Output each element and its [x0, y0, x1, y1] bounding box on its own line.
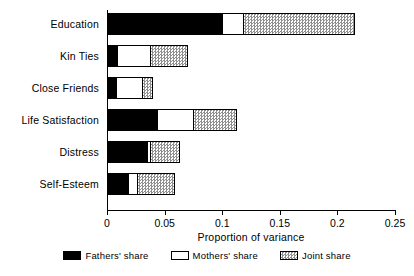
- bar-row: [107, 109, 237, 131]
- x-axis-title: Proportion of variance: [107, 231, 395, 243]
- white-open-swatch: [171, 251, 189, 260]
- bar-segment-mothers: [128, 173, 137, 195]
- x-axis-tick: [107, 210, 108, 215]
- x-axis-tick: [222, 210, 223, 215]
- bar-row: [107, 13, 355, 35]
- bar-segment-fathers: [107, 45, 117, 67]
- y-axis-category-labels: EducationKin TiesClose FriendsLife Satis…: [0, 10, 103, 210]
- bar-segment-mothers: [222, 13, 243, 35]
- bar-row: [107, 141, 180, 163]
- bar-segment-joint: [137, 173, 175, 195]
- chart-figure: EducationKin TiesClose FriendsLife Satis…: [0, 0, 414, 276]
- bar-segment-joint: [243, 13, 355, 35]
- x-axis-tick-label: 0: [104, 217, 110, 229]
- bar-row: [107, 77, 153, 99]
- bar-segment-joint: [150, 141, 180, 163]
- bar-row: [107, 173, 175, 195]
- plot-area: [107, 10, 395, 210]
- bar-segment-joint: [150, 45, 188, 67]
- x-axis-tick: [165, 210, 166, 215]
- bar-segment-fathers: [107, 141, 147, 163]
- bar-segment-mothers: [157, 109, 194, 131]
- legend-label: Mothers' share: [193, 250, 258, 261]
- bar-row: [107, 45, 188, 67]
- bar-segment-fathers: [107, 13, 222, 35]
- x-axis-tick: [280, 210, 281, 215]
- x-axis-tick: [337, 210, 338, 215]
- y-axis-label-distress: Distress: [0, 141, 99, 163]
- legend-label: Joint share: [302, 250, 351, 261]
- legend-item: Fathers' share: [63, 250, 148, 261]
- bar-segment-joint: [142, 77, 154, 99]
- chart-legend: Fathers' shareMothers' shareJoint share: [0, 250, 414, 261]
- legend-label: Fathers' share: [85, 250, 148, 261]
- x-axis-tick-label: 0.2: [330, 217, 345, 229]
- gray-hatched-swatch: [280, 251, 298, 260]
- x-axis-tick: [395, 210, 396, 215]
- y-axis-label-self-esteem: Self-Esteem: [0, 173, 99, 195]
- bar-segment-fathers: [107, 109, 157, 131]
- black-filled-swatch: [63, 251, 81, 260]
- bar-segment-joint: [193, 109, 237, 131]
- x-axis-tick-label: 0.15: [270, 217, 290, 229]
- legend-item: Joint share: [280, 250, 351, 261]
- y-axis-label-kin-ties: Kin Ties: [0, 45, 99, 67]
- x-axis-tick-label: 0.1: [215, 217, 230, 229]
- x-axis-tick-label: 0.25: [385, 217, 405, 229]
- x-axis-tick-label: 0.05: [154, 217, 174, 229]
- x-axis-line: [107, 210, 395, 211]
- legend-item: Mothers' share: [171, 250, 258, 261]
- bar-segment-fathers: [107, 77, 116, 99]
- bar-segment-mothers: [117, 45, 149, 67]
- y-axis-label-education: Education: [0, 13, 99, 35]
- bar-segment-fathers: [107, 173, 128, 195]
- bar-segment-mothers: [116, 77, 141, 99]
- y-axis-label-life-satisfaction: Life Satisfaction: [0, 109, 99, 131]
- y-axis-label-close-friends: Close Friends: [0, 77, 99, 99]
